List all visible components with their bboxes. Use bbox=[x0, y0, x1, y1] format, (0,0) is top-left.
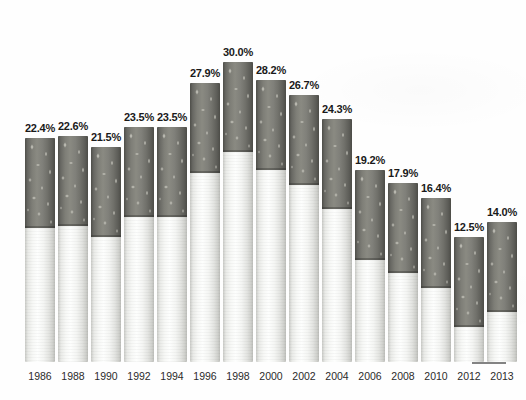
x-axis-tick-label: 2010 bbox=[424, 370, 447, 382]
x-axis-tick-label: 2013 bbox=[490, 370, 513, 382]
bar-value-label: 27.9% bbox=[190, 67, 220, 79]
bar-value-label: 23.5% bbox=[124, 111, 154, 123]
bar-value-label: 24.3% bbox=[322, 103, 352, 115]
x-axis-tick-label: 2008 bbox=[391, 370, 414, 382]
x-axis-tick-label: 1986 bbox=[28, 370, 51, 382]
cigarette-tobacco-section bbox=[454, 237, 484, 327]
cigarette-bar-chart: 22.4%198622.6%198821.5%199023.5%199223.5… bbox=[0, 0, 526, 400]
cigarette-tobacco-section bbox=[322, 119, 352, 209]
bar-1994: 23.5%1994 bbox=[157, 127, 187, 362]
cigarette-tobacco-section bbox=[124, 127, 154, 217]
bar-value-label: 19.2% bbox=[355, 154, 385, 166]
x-axis-tick-label: 2012 bbox=[457, 370, 480, 382]
cigarette-tobacco-section bbox=[223, 62, 253, 152]
x-axis-tick-label: 1992 bbox=[127, 370, 150, 382]
cigarette-tobacco-section bbox=[256, 80, 286, 170]
cigarette-tobacco-section bbox=[91, 147, 121, 237]
cigarette-tobacco-section bbox=[388, 183, 418, 273]
x-axis-tick-label: 1996 bbox=[193, 370, 216, 382]
chart-baseline-accent bbox=[472, 362, 506, 364]
cigarette-tobacco-section bbox=[157, 127, 187, 217]
bar-value-label: 21.5% bbox=[91, 131, 121, 143]
cigarette-bar-body bbox=[25, 138, 55, 362]
cigarette-tobacco-section bbox=[355, 170, 385, 260]
bar-2000: 28.2%2000 bbox=[256, 80, 286, 362]
bar-1996: 27.9%1996 bbox=[190, 83, 220, 362]
cigarette-bar-body bbox=[157, 127, 187, 362]
cigarette-bar-body bbox=[454, 237, 484, 362]
bar-value-label: 22.4% bbox=[25, 122, 55, 134]
bar-2004: 24.3%2004 bbox=[322, 119, 352, 362]
cigarette-bar-body bbox=[487, 222, 517, 362]
bar-2010: 16.4%2010 bbox=[421, 198, 451, 362]
cigarette-tobacco-section bbox=[487, 222, 517, 312]
cigarette-bar-body bbox=[322, 119, 352, 362]
cigarette-tobacco-section bbox=[289, 95, 319, 185]
bar-value-label: 26.7% bbox=[289, 79, 319, 91]
bar-2008: 17.9%2008 bbox=[388, 183, 418, 362]
bar-value-label: 12.5% bbox=[454, 221, 484, 233]
bar-value-label: 22.6% bbox=[58, 120, 88, 132]
bar-1986: 22.4%1986 bbox=[25, 138, 55, 362]
cigarette-bar-body bbox=[124, 127, 154, 362]
cigarette-bar-body bbox=[355, 170, 385, 362]
cigarette-tobacco-section bbox=[25, 138, 55, 228]
cigarette-bar-body bbox=[421, 198, 451, 362]
bar-value-label: 17.9% bbox=[388, 167, 418, 179]
bar-1992: 23.5%1992 bbox=[124, 127, 154, 362]
x-axis-tick-label: 1988 bbox=[61, 370, 84, 382]
cigarette-bar-body bbox=[91, 147, 121, 362]
cigarette-bar-body bbox=[388, 183, 418, 362]
cigarette-bar-body bbox=[190, 83, 220, 362]
cigarette-tobacco-section bbox=[421, 198, 451, 288]
bar-1998: 30.0%1998 bbox=[223, 62, 253, 362]
bar-2012: 12.5%2012 bbox=[454, 237, 484, 362]
x-axis-tick-label: 2004 bbox=[325, 370, 348, 382]
bar-2006: 19.2%2006 bbox=[355, 170, 385, 362]
bar-2013: 14.0%2013 bbox=[487, 222, 517, 362]
x-axis-tick-label: 1990 bbox=[94, 370, 117, 382]
cigarette-bar-body bbox=[256, 80, 286, 362]
cigarette-bar-body bbox=[223, 62, 253, 362]
bar-value-label: 23.5% bbox=[157, 111, 187, 123]
bar-1990: 21.5%1990 bbox=[91, 147, 121, 362]
x-axis-tick-label: 2002 bbox=[292, 370, 315, 382]
bar-1988: 22.6%1988 bbox=[58, 136, 88, 362]
cigarette-tobacco-section bbox=[190, 83, 220, 173]
plot-area: 22.4%198622.6%198821.5%199023.5%199223.5… bbox=[0, 0, 526, 400]
bar-value-label: 30.0% bbox=[223, 46, 253, 58]
x-axis-tick-label: 1994 bbox=[160, 370, 183, 382]
x-axis-tick-label: 1998 bbox=[226, 370, 249, 382]
bar-value-label: 28.2% bbox=[256, 64, 286, 76]
cigarette-bar-body bbox=[58, 136, 88, 362]
bar-2002: 26.7%2002 bbox=[289, 95, 319, 362]
bar-value-label: 14.0% bbox=[487, 206, 517, 218]
x-axis-tick-label: 2006 bbox=[358, 370, 381, 382]
x-axis-tick-label: 2000 bbox=[259, 370, 282, 382]
bar-value-label: 16.4% bbox=[421, 182, 451, 194]
cigarette-bar-body bbox=[289, 95, 319, 362]
cigarette-tobacco-section bbox=[58, 136, 88, 226]
